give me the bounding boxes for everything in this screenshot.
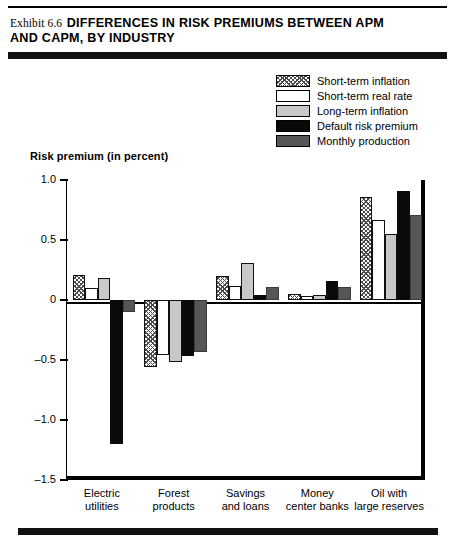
footer-rule	[18, 528, 438, 535]
bar	[194, 300, 207, 352]
y-axis-tick	[60, 299, 68, 300]
bar	[216, 276, 229, 300]
bar	[326, 281, 339, 300]
bar	[123, 300, 136, 312]
chart-plot-area: 1.00.50–0.5–1.0–1.5 ElectricutilitiesFor…	[0, 0, 455, 548]
x-axis-label: Oil withlarge reserves	[341, 487, 437, 513]
y-axis-tick-label: 0.5	[16, 234, 56, 245]
y-axis-tick-label: 0	[16, 294, 56, 305]
y-axis-tick-label: –1.0	[16, 414, 56, 425]
x-axis-label-line: Oil with	[341, 487, 437, 500]
bar	[85, 288, 98, 300]
y-axis-tick	[60, 179, 68, 180]
bar	[301, 296, 314, 300]
bar	[313, 295, 326, 300]
y-axis-tick	[60, 479, 68, 480]
bar	[385, 234, 398, 300]
bar	[410, 215, 423, 300]
bar	[182, 300, 195, 356]
bar	[241, 263, 254, 300]
bar	[288, 294, 301, 300]
bar	[98, 278, 111, 300]
y-axis-tick	[60, 419, 68, 420]
bar	[266, 287, 279, 300]
bar	[338, 287, 351, 300]
bar	[372, 220, 385, 300]
bar	[157, 300, 170, 355]
y-axis-tick-label: –0.5	[16, 354, 56, 365]
y-axis-tick-label: –1.5	[16, 474, 56, 485]
bar	[169, 300, 182, 362]
bar	[360, 197, 373, 300]
x-axis-label-line: large reserves	[341, 500, 437, 513]
bar	[73, 275, 86, 300]
bar	[397, 191, 410, 300]
bar	[254, 295, 267, 300]
y-axis-tick	[60, 359, 68, 360]
y-axis-tick-label: 1.0	[16, 174, 56, 185]
bar	[229, 286, 242, 300]
y-axis-tick	[60, 239, 68, 240]
bar	[110, 300, 123, 444]
bar	[144, 300, 157, 367]
